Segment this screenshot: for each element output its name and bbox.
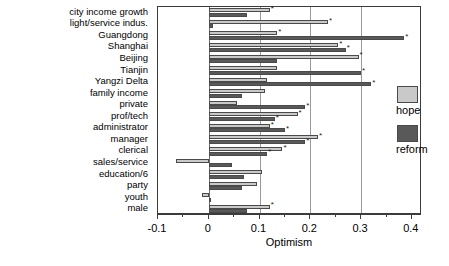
bar-reform — [209, 209, 247, 213]
bar-reform — [209, 82, 372, 86]
y-axis-label: light/service indus. — [70, 17, 148, 29]
bar-group: * — [158, 65, 420, 77]
bar-group: ** — [158, 146, 420, 158]
significance-marker: * — [268, 150, 271, 154]
bar-reform — [209, 198, 211, 202]
x-axis-tick — [259, 214, 260, 219]
bar-group — [158, 157, 420, 169]
bar-hope — [209, 20, 328, 24]
bar-group — [158, 180, 420, 192]
bar-hope — [209, 147, 283, 151]
bar-hope — [209, 66, 278, 70]
bar-reform — [209, 140, 306, 144]
significance-marker: * — [306, 139, 309, 143]
y-axis-label: prof/tech — [111, 110, 148, 122]
x-axis-tick-labels: -0.100.10.20.30.4 — [157, 221, 421, 237]
bar-group: ** — [158, 123, 420, 135]
significance-marker: * — [319, 134, 322, 138]
bar-hope — [209, 124, 270, 128]
bar-group: ** — [158, 30, 420, 42]
bar-hope — [209, 89, 265, 93]
legend-entry-hope: hope — [396, 86, 448, 117]
bar-group: * — [158, 7, 420, 19]
x-axis-tick — [309, 214, 310, 219]
bar-hope — [209, 78, 267, 82]
bar-group — [158, 169, 420, 181]
bar-hope — [209, 170, 262, 174]
bar-reform — [209, 117, 275, 121]
bar-group: ** — [158, 134, 420, 146]
y-axis-label: education/6 — [99, 168, 148, 180]
bar-hope — [209, 112, 298, 116]
bar-group: ** — [158, 42, 420, 54]
bar-hope — [209, 135, 318, 139]
bar-group — [158, 88, 420, 100]
y-axis-label: Shanghai — [108, 40, 148, 52]
x-axis-tick-label: -0.1 — [148, 221, 167, 235]
bar-reform — [209, 59, 278, 63]
bar-group: * — [158, 19, 420, 31]
bar-hope — [209, 101, 237, 105]
bar-reform — [209, 186, 242, 190]
x-axis-title: Optimism — [157, 236, 421, 248]
significance-marker: * — [339, 42, 342, 46]
x-axis-tick — [411, 214, 412, 219]
significance-marker: * — [271, 123, 274, 127]
y-axis-label: administrator — [93, 121, 148, 133]
bar-hope — [209, 182, 257, 186]
y-axis-label: private — [119, 98, 148, 110]
bar-hope — [202, 193, 209, 197]
bar-series-layer: ******************* — [158, 7, 420, 213]
bar-reform — [209, 13, 247, 17]
significance-marker: * — [360, 53, 363, 57]
x-axis-minor-tick — [233, 214, 234, 217]
y-axis-label: Yangzi Delta — [95, 75, 148, 87]
x-axis-tick-label: 0.3 — [352, 221, 367, 235]
y-axis-label: male — [127, 202, 148, 214]
legend-swatch-reform — [397, 125, 418, 142]
bar-group: ** — [158, 111, 420, 123]
bar-group: * — [158, 53, 420, 65]
legend-entry-reform: reform — [396, 125, 448, 156]
legend-swatch-hope — [397, 86, 418, 103]
y-axis-label: clerical — [118, 144, 148, 156]
x-axis-tick-label: 0.4 — [403, 221, 418, 235]
bar-reform — [209, 48, 346, 52]
legend-label-hope: hope — [396, 104, 448, 117]
bar-reform — [209, 175, 245, 179]
significance-marker: * — [286, 127, 289, 131]
x-axis-tick-label: 0.2 — [302, 221, 317, 235]
x-axis-tick — [157, 214, 158, 219]
bar-hope — [176, 159, 209, 163]
significance-marker: * — [329, 19, 332, 23]
y-axis-label: Beijing — [119, 52, 148, 64]
significance-marker: * — [271, 203, 274, 207]
x-axis-line — [157, 214, 421, 215]
y-axis-label: party — [127, 179, 148, 191]
bar-reform — [209, 36, 405, 40]
bar-reform — [209, 94, 242, 98]
bar-hope — [209, 43, 339, 47]
x-axis-tick — [360, 214, 361, 219]
bar-reform — [209, 105, 306, 109]
bar-hope — [209, 31, 278, 35]
x-axis-tick-label: 0.1 — [251, 221, 266, 235]
y-axis-label: Guangdong — [98, 29, 148, 41]
x-axis-tick — [208, 214, 209, 219]
x-axis-minor-tick — [182, 214, 183, 217]
significance-marker: * — [278, 30, 281, 34]
plot-area: ******************* — [157, 6, 421, 214]
significance-marker: * — [372, 81, 375, 85]
x-axis-minor-tick — [386, 214, 387, 217]
bar-reform — [209, 71, 361, 75]
y-axis-label: youth — [125, 191, 148, 203]
bar-reform — [209, 163, 232, 167]
bar-reform — [209, 152, 267, 156]
bar-group — [158, 192, 420, 204]
bar-hope — [209, 205, 270, 209]
significance-marker: * — [271, 7, 274, 11]
x-axis-tick-label: 0 — [205, 221, 211, 235]
bar-hope — [209, 55, 359, 59]
bar-group: * — [158, 76, 420, 88]
x-axis-minor-tick — [335, 214, 336, 217]
